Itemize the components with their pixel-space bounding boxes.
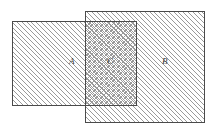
set-b-right-edge [204,11,205,123]
set-b-top-edge [85,11,205,12]
set-a-right-edge [136,21,137,106]
set-b-label: B [162,57,168,66]
set-a-bottom-edge [12,105,137,106]
set-b-bottom-edge [85,122,205,123]
set-a-top-edge [12,21,137,22]
set-diagram-figure: A C B [0,0,217,134]
set-b-left-edge [85,11,86,123]
set-a-label: A [69,57,75,66]
intersection-label: C [107,57,113,66]
set-a-left-edge [12,21,13,106]
